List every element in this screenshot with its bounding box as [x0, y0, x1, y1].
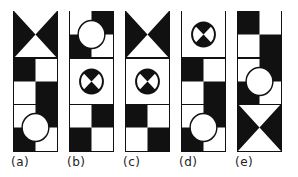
option-panel-a [13, 11, 58, 152]
option-panel-c [125, 11, 170, 152]
crossed-circle-icon [126, 58, 169, 105]
option-panel-b [69, 11, 114, 152]
option-label: (b) [67, 155, 85, 169]
block-divider [14, 57, 57, 59]
checker-wb-circle-icon [70, 11, 113, 58]
block-divider [70, 104, 113, 106]
block-divider [126, 104, 169, 106]
hourglass-icon [14, 11, 57, 58]
option-label: (a) [11, 155, 29, 169]
crossed-circle-icon [182, 11, 225, 58]
checker-bl-icon [126, 104, 169, 151]
checker-bl-icon [182, 58, 225, 105]
block-divider [182, 104, 225, 106]
checker-wb-icon [70, 104, 113, 151]
hourglass-icon [238, 104, 281, 151]
block-divider [182, 57, 225, 59]
checker-wb-circle-icon [238, 58, 281, 105]
checker-wb-circle-icon [182, 104, 225, 151]
checker-bl-icon [14, 58, 57, 105]
option-panel-e [237, 11, 282, 152]
option-label: (e) [235, 155, 253, 169]
checker-bl-icon [238, 11, 281, 58]
hourglass-icon [126, 11, 169, 58]
block-divider [238, 57, 281, 59]
block-divider [238, 104, 281, 106]
checker-wb-circle-icon [14, 104, 57, 151]
block-divider [70, 57, 113, 59]
block-divider [14, 104, 57, 106]
option-panel-d [181, 11, 226, 152]
option-label: (d) [179, 155, 197, 169]
crossed-circle-icon [70, 58, 113, 105]
option-label: (c) [123, 155, 140, 169]
block-divider [126, 57, 169, 59]
